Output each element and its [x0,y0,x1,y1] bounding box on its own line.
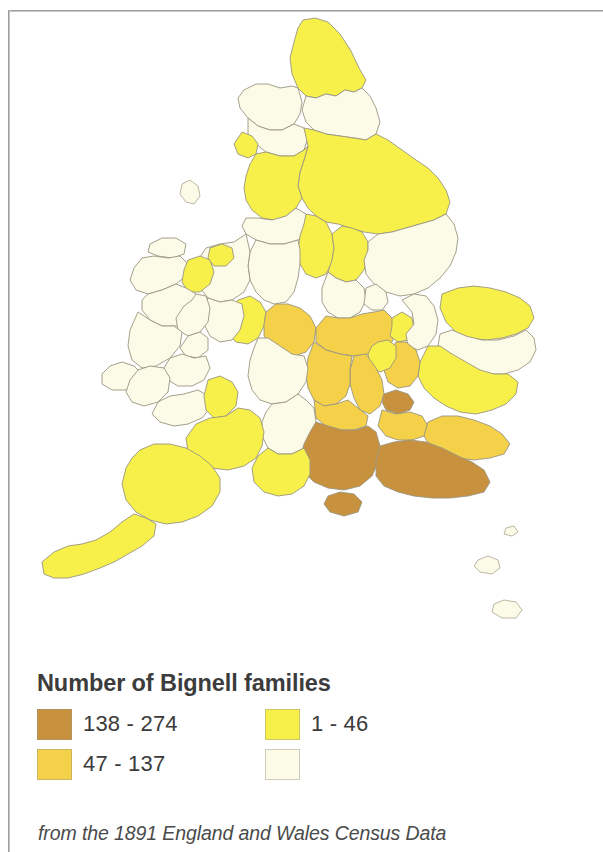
map-legend: Number of Bignell families 138 - 274 1 -… [37,668,557,784]
island-channel-south [492,600,522,618]
choropleth-map [10,12,601,660]
county-surrey [378,410,428,440]
island-isle-of-man [180,180,200,204]
county-brecknockshire [164,354,210,386]
legend-label-138-274: 138 - 274 [83,711,178,737]
figure-caption: from the 1891 England and Wales Census D… [38,822,446,845]
map-svg [10,12,601,660]
legend-swatch-138-274 [37,709,72,740]
county-dorset [252,448,310,496]
county-isle-of-wight [324,492,362,516]
legend-title: Number of Bignell families [37,668,557,698]
county-radnorshire [180,332,208,358]
figure-page: Number of Bignell families 138 - 274 1 -… [0,0,603,852]
legend-entries: 138 - 274 1 - 46 47 - 137 [37,704,457,784]
county-nottinghamshire [328,226,368,282]
county-middlesex [382,390,414,414]
legend-label-1-46: 1 - 46 [311,711,368,737]
legend-entry-138-274[interactable]: 138 - 274 [37,709,265,740]
county-lancashire [244,146,308,220]
legend-entry-1-46[interactable]: 1 - 46 [265,709,457,740]
legend-swatch-lowest [265,749,300,780]
island-channel-small-north [504,526,518,536]
county-staffordshire [248,240,300,304]
county-northumberland [290,18,366,98]
island-channel-middle [474,556,500,574]
legend-label-47-137: 47 - 137 [83,751,165,777]
legend-entry-47-137[interactable]: 47 - 137 [37,749,265,780]
legend-swatch-1-46 [265,709,300,740]
legend-entry-lowest[interactable] [265,749,457,780]
legend-swatch-47-137 [37,749,72,780]
county-hampshire [300,422,380,490]
county-yorkshire [298,128,450,234]
county-anglesey [148,238,186,258]
county-cornwall [42,514,156,578]
